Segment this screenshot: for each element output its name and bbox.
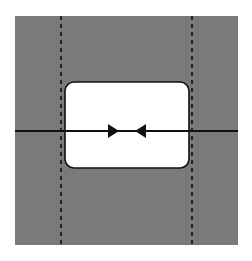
diagram	[0, 0, 252, 261]
center-frame	[65, 82, 189, 168]
